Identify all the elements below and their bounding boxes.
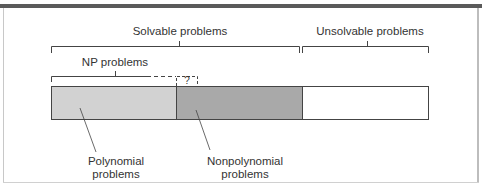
nonpolynomial-label-line1: Nonpolynomial <box>200 155 290 168</box>
unsolvable-label: Unsolvable problems <box>312 25 428 38</box>
solvable-label: Solvable problems <box>126 25 234 38</box>
polynomial-label-line2: problems <box>80 168 152 181</box>
polynomial-label-line1: Polynomial <box>80 155 152 168</box>
nonpolynomial-label: Nonpolynomial problems <box>200 155 290 181</box>
polynomial-label: Polynomial problems <box>80 155 152 181</box>
nonpolynomial-region <box>177 87 303 120</box>
figure-frame: Solvable problems Unsolvable problems NP… <box>0 0 482 187</box>
np-label: NP problems <box>80 56 150 69</box>
unsolvable-region <box>303 87 429 120</box>
unsolvable-brace <box>303 41 429 53</box>
np-brace <box>52 71 177 82</box>
polynomial-region <box>52 87 177 120</box>
nonpolynomial-label-line2: problems <box>200 168 290 181</box>
unknown-label: ? <box>180 76 194 86</box>
solvable-brace <box>52 41 300 53</box>
